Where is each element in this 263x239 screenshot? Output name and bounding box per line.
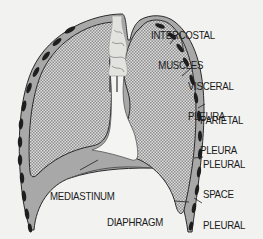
pleura-diagram: INTERCOSTAL MUSCLES VISCERAL PLEURA PARI… [0,0,263,239]
label-diaphragm: DIAPHRAGM [107,197,163,239]
label-mediastinum: MEDIASTINUM [50,171,115,221]
label-pleural-recess: PLEURAL RECESS [203,200,245,239]
